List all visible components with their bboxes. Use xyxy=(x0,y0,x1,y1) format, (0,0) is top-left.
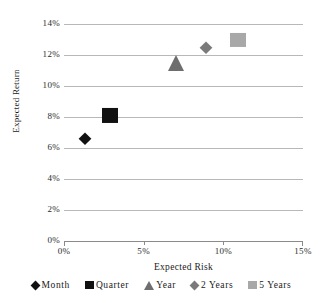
legend-item-label: Month xyxy=(42,280,70,290)
legend-item-year[interactable]: Year xyxy=(144,280,176,290)
gridline xyxy=(64,24,303,25)
legend-item-label: 5 Years xyxy=(259,280,291,290)
y-axis-tick-label: 2% xyxy=(6,205,60,214)
x-axis-tick-label: 10% xyxy=(203,247,243,256)
legend-item-label: Quarter xyxy=(96,280,129,290)
data-point-month xyxy=(78,132,91,145)
gridline xyxy=(64,86,303,87)
gridline xyxy=(64,117,303,118)
y-axis-title: Expected Return xyxy=(11,41,21,161)
diamond-marker-icon xyxy=(30,280,40,290)
legend-item-label: Year xyxy=(156,280,176,290)
gridline xyxy=(64,179,303,180)
y-axis-tick-label: 14% xyxy=(6,19,60,28)
diamond-marker-icon xyxy=(190,280,200,290)
x-axis-tick xyxy=(144,241,145,245)
x-axis-line xyxy=(64,241,303,242)
plot-area xyxy=(64,24,303,241)
gridline xyxy=(64,210,303,211)
y-axis-tick-label: 4% xyxy=(6,174,60,183)
legend-item-month[interactable]: Month xyxy=(32,280,70,290)
legend-item-quarter[interactable]: Quarter xyxy=(85,280,129,290)
y-axis-tick-label: 0% xyxy=(6,236,60,245)
data-point-quarter xyxy=(102,108,118,122)
data-point-5-years xyxy=(230,32,246,46)
legend-item-2-years[interactable]: 2 Years xyxy=(191,280,233,290)
x-axis-title: Expected Risk xyxy=(64,262,303,272)
x-axis-tick xyxy=(223,241,224,245)
legend-item-label: 2 Years xyxy=(201,280,233,290)
x-axis-tick-label: 5% xyxy=(124,247,164,256)
data-point-year xyxy=(168,55,184,71)
y-axis-tick-labels: 0%2%4%6%8%10%12%14% xyxy=(0,0,60,303)
gridline xyxy=(64,148,303,149)
triangle-marker-icon xyxy=(144,281,154,290)
square-marker-icon xyxy=(248,281,257,289)
legend-item-5-years[interactable]: 5 Years xyxy=(248,280,291,290)
x-axis-tick-label: 0% xyxy=(44,247,84,256)
scatter-chart: 0%2%4%6%8%10%12%14% Expected Return 0%5%… xyxy=(0,0,323,303)
data-point-2-years xyxy=(199,41,212,54)
square-marker-icon xyxy=(85,281,94,289)
x-axis-tick-label: 15% xyxy=(283,247,323,256)
chart-legend: MonthQuarterYear2 Years5 Years xyxy=(0,276,323,294)
